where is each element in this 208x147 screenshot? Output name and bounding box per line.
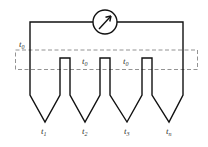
reference-temp-label: t0 xyxy=(19,39,25,50)
thermocouple-chain-wire xyxy=(30,22,183,122)
junction-temp-label-3: t3 xyxy=(124,126,130,137)
cold-temp-label-2: t0 xyxy=(123,56,129,67)
cold-temp-label-1: t0 xyxy=(82,56,88,67)
junction-temp-label-n: tn xyxy=(166,126,172,137)
junction-temp-label-2: t2 xyxy=(82,126,88,137)
galvanometer-icon xyxy=(93,10,117,34)
junction-temp-label-1: t1 xyxy=(41,126,47,137)
reference-zone-dashed-box xyxy=(16,50,198,70)
thermopile-diagram: t0 t0 t0 t1 t2 t3 tn xyxy=(0,0,208,147)
